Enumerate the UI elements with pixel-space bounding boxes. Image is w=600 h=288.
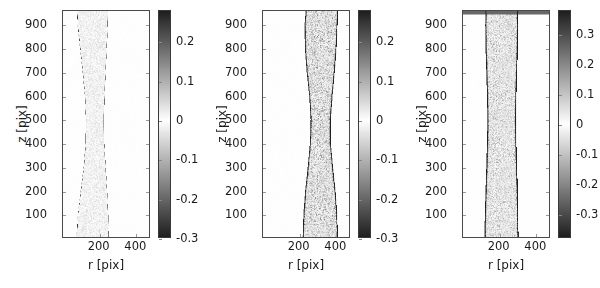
- y-axis-tick-label: 700: [425, 65, 447, 79]
- colorbar-tick-label: 0: [176, 113, 183, 127]
- y-axis-tick: [146, 168, 149, 169]
- y-axis-tick: [263, 49, 266, 50]
- x-axis-tick-label: 200: [88, 239, 110, 253]
- colorbar-tick: [359, 42, 362, 43]
- y-axis-tick: [63, 144, 66, 145]
- figure-three-panel-heatmaps: z [pix] r [pix] 100200300400500600700800…: [0, 0, 600, 288]
- x-axis-tick-label: 400: [524, 239, 546, 253]
- y-axis-tick-label: 600: [425, 89, 447, 103]
- colorbar-tick-label: 0: [376, 113, 383, 127]
- y-axis-tick-label: 200: [425, 184, 447, 198]
- colorbar-tick: [559, 125, 562, 126]
- y-axis-tick: [546, 168, 549, 169]
- y-axis-tick-label: 800: [225, 41, 247, 55]
- heatmap-image: [63, 11, 149, 237]
- y-axis-tick-label: 300: [225, 160, 247, 174]
- x-axis-title: r [pix]: [88, 258, 124, 272]
- y-axis-tick-label: 500: [425, 112, 447, 126]
- y-axis-tick: [346, 25, 349, 26]
- y-axis-tick: [546, 144, 549, 145]
- colorbar-tick: [159, 82, 162, 83]
- y-axis-tick-label: 400: [25, 136, 47, 150]
- x-axis-tick-label: 200: [488, 239, 510, 253]
- y-axis-tick: [463, 120, 466, 121]
- colorbar-tick: [559, 215, 562, 216]
- colorbar-tick-label: 0.1: [376, 74, 394, 88]
- y-axis-tick: [146, 25, 149, 26]
- y-axis-tick-label: 900: [25, 17, 47, 31]
- colorbar-tick: [559, 35, 562, 36]
- colorbar-tick: [359, 200, 362, 201]
- y-axis-tick: [146, 144, 149, 145]
- colorbar-tick-label: -0.2: [376, 192, 398, 206]
- y-axis-tick: [146, 73, 149, 74]
- colorbar-tick-label: -0.3: [176, 231, 198, 245]
- y-axis-tick: [346, 144, 349, 145]
- x-axis-tick-label: 400: [124, 239, 146, 253]
- colorbar: [158, 10, 171, 238]
- y-axis-tick: [463, 192, 466, 193]
- y-axis-tick-label: 800: [25, 41, 47, 55]
- x-axis-tick: [336, 234, 337, 237]
- colorbar-tick: [359, 82, 362, 83]
- y-axis-tick: [63, 49, 66, 50]
- colorbar-tick: [559, 185, 562, 186]
- x-axis-tick: [300, 234, 301, 237]
- plot-area: [462, 10, 550, 238]
- y-axis-tick: [63, 168, 66, 169]
- y-axis-tick: [146, 97, 149, 98]
- y-axis-tick: [346, 120, 349, 121]
- colorbar-tick-label: -0.2: [576, 177, 598, 191]
- plot-area: [262, 10, 350, 238]
- x-axis-tick-label: 400: [324, 239, 346, 253]
- y-axis-tick: [263, 120, 266, 121]
- y-axis-tick: [263, 215, 266, 216]
- y-axis-tick-label: 100: [225, 207, 247, 221]
- y-axis-tick: [346, 73, 349, 74]
- x-axis-tick: [500, 234, 501, 237]
- y-axis-tick: [263, 144, 266, 145]
- y-axis-tick-label: 900: [225, 17, 247, 31]
- x-axis-title: r [pix]: [488, 258, 524, 272]
- colorbar-tick: [159, 121, 162, 122]
- heatmap-image: [463, 11, 549, 237]
- y-axis-tick: [546, 49, 549, 50]
- y-axis-tick: [263, 192, 266, 193]
- y-axis-tick-label: 500: [25, 112, 47, 126]
- y-axis-tick: [463, 144, 466, 145]
- colorbar-tick-label: -0.3: [576, 207, 598, 221]
- y-axis-tick: [463, 215, 466, 216]
- colorbar: [358, 10, 371, 238]
- y-axis-tick-label: 300: [25, 160, 47, 174]
- y-axis-tick: [146, 49, 149, 50]
- y-axis-tick: [463, 49, 466, 50]
- y-axis-tick: [546, 97, 549, 98]
- y-axis-tick: [546, 120, 549, 121]
- y-axis-tick-label: 700: [25, 65, 47, 79]
- y-axis-tick: [346, 97, 349, 98]
- y-axis-tick: [63, 192, 66, 193]
- y-axis-tick-label: 200: [225, 184, 247, 198]
- x-axis-tick: [100, 234, 101, 237]
- colorbar-tick-label: 0.1: [176, 74, 194, 88]
- y-axis-tick: [63, 97, 66, 98]
- y-axis-tick: [346, 215, 349, 216]
- y-axis-tick: [146, 192, 149, 193]
- y-axis-tick: [546, 215, 549, 216]
- y-axis-tick: [263, 25, 266, 26]
- colorbar-tick: [159, 42, 162, 43]
- y-axis-tick: [463, 97, 466, 98]
- colorbar-tick: [359, 160, 362, 161]
- y-axis-tick: [146, 215, 149, 216]
- colorbar-tick: [159, 200, 162, 201]
- y-axis-tick-label: 600: [225, 89, 247, 103]
- y-axis-tick: [546, 25, 549, 26]
- x-axis-tick: [136, 234, 137, 237]
- colorbar-tick-label: 0.2: [576, 57, 594, 71]
- y-axis-tick: [546, 192, 549, 193]
- panel-1: z [pix] r [pix] 100200300400500600700800…: [200, 0, 400, 288]
- y-axis-tick: [63, 120, 66, 121]
- y-axis-tick: [346, 168, 349, 169]
- colorbar-tick-label: 0.3: [576, 27, 594, 41]
- y-axis-tick-label: 100: [425, 207, 447, 221]
